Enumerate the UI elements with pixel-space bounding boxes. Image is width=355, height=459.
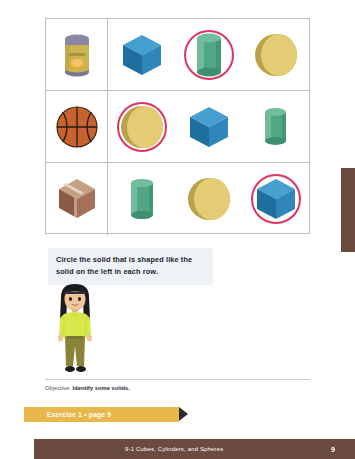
student-character-illustration bbox=[44, 281, 106, 375]
prompt-cell-soup-can bbox=[46, 19, 108, 90]
options-cell bbox=[108, 163, 309, 235]
objective-divider bbox=[45, 379, 310, 380]
option-cylinder[interactable] bbox=[114, 167, 170, 231]
footer-lesson-title: 9-1 Cubes, Cylinders, and Spheres bbox=[125, 446, 223, 452]
cube-icon bbox=[119, 31, 165, 79]
instruction-text: Circle the solid that is shaped like the… bbox=[48, 248, 213, 285]
cardboard-box-icon bbox=[56, 176, 98, 222]
options-cell bbox=[108, 91, 309, 162]
objective-prefix: Objective: bbox=[45, 385, 71, 391]
worksheet-page: Circle the solid that is shaped like the… bbox=[0, 0, 355, 459]
footer-page-number: 9 bbox=[331, 446, 335, 453]
basketball-icon bbox=[56, 106, 98, 148]
option-cube[interactable] bbox=[114, 23, 170, 87]
prompt-cell-basketball bbox=[46, 91, 108, 162]
option-cube[interactable] bbox=[248, 167, 304, 231]
sphere-icon bbox=[252, 31, 300, 79]
prompt-cell-cardboard-box bbox=[46, 163, 108, 235]
cube-icon bbox=[253, 175, 299, 223]
page-edge-tab bbox=[341, 168, 355, 252]
footer-left-margin bbox=[0, 439, 34, 459]
cylinder-icon bbox=[261, 105, 291, 149]
cylinder-icon bbox=[126, 175, 158, 223]
option-cylinder[interactable] bbox=[181, 23, 237, 87]
table-row bbox=[46, 163, 309, 235]
option-cylinder[interactable] bbox=[248, 95, 304, 159]
exercise-banner-label: Exercise 1 • page 9 bbox=[47, 411, 111, 418]
page-footer: 9-1 Cubes, Cylinders, and Spheres 9 bbox=[34, 439, 355, 459]
table-row bbox=[46, 19, 309, 91]
option-cube[interactable] bbox=[181, 95, 237, 159]
exercise-table bbox=[45, 18, 310, 234]
option-sphere[interactable] bbox=[181, 167, 237, 231]
cylinder-icon bbox=[192, 30, 226, 80]
options-cell bbox=[108, 19, 309, 90]
sphere-icon bbox=[185, 175, 233, 223]
soup-can-icon bbox=[62, 31, 92, 79]
option-sphere[interactable] bbox=[114, 95, 170, 159]
exercise-banner-arrow-icon bbox=[179, 407, 188, 421]
objective-body: Identify some solids. bbox=[73, 385, 130, 391]
option-sphere[interactable] bbox=[248, 23, 304, 87]
table-row bbox=[46, 91, 309, 163]
objective-line: Objective: Identify some solids. bbox=[45, 385, 130, 391]
exercise-banner[interactable]: Exercise 1 • page 9 bbox=[24, 407, 179, 422]
sphere-icon bbox=[118, 103, 166, 151]
cube-icon bbox=[186, 103, 232, 151]
